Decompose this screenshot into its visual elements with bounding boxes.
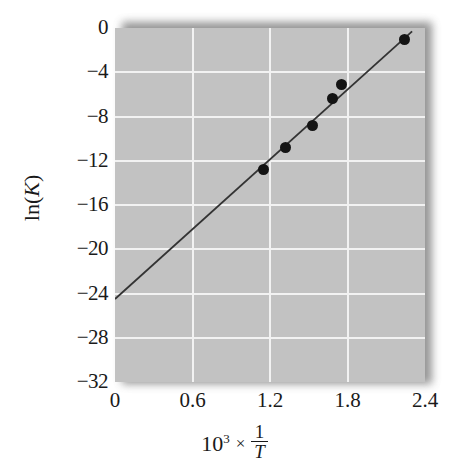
x-axis-tick-label: 0.6 (158, 390, 228, 411)
x-axis-tick-label: 2.4 (390, 390, 460, 411)
x-axis-tick-label: 1.8 (313, 390, 383, 411)
arrhenius-plot-figure: 0−4−8−12−16−20−24−28−32 00.61.21.82.4 ln… (0, 0, 469, 475)
data-point (327, 93, 338, 104)
data-point (399, 34, 410, 45)
fit-line (115, 28, 425, 382)
x-axis-tick-labels: 00.61.21.82.4 (0, 390, 469, 418)
y-axis-tick-label: −12 (50, 150, 108, 171)
data-point (336, 79, 347, 90)
x-axis-label: 103×1T (0, 424, 469, 464)
x-axis-tick-label: 1.2 (235, 390, 305, 411)
data-point (280, 142, 291, 153)
data-point (307, 120, 318, 131)
y-axis-tick-label: −8 (50, 106, 108, 127)
y-axis-tick-label: −24 (50, 283, 108, 304)
y-axis-tick-label: −28 (50, 327, 108, 348)
plot-area (115, 28, 425, 382)
x-axis-label-fraction: 1T (251, 422, 268, 462)
x-axis-tick-label: 0 (80, 390, 150, 411)
y-axis-label: ln(K) (19, 148, 45, 248)
y-axis-tick-label: −4 (50, 61, 108, 82)
x-axis-label-mantissa: 10 (201, 431, 223, 456)
x-axis-label-base: 103 (201, 431, 230, 457)
y-axis-label-suffix: ) (19, 175, 44, 182)
y-axis-tick-label: −32 (50, 371, 108, 392)
y-axis-tick-label: 0 (50, 17, 108, 38)
fraction-numerator: 1 (251, 422, 268, 441)
y-axis-tick-label: −20 (50, 238, 108, 259)
multiplication-icon: × (236, 434, 246, 454)
fraction-denominator: T (251, 441, 268, 461)
x-axis-label-exponent: 3 (223, 431, 230, 446)
y-axis-label-prefix: ln( (19, 197, 44, 221)
y-axis-tick-label: −16 (50, 194, 108, 215)
y-axis-label-variable: K (19, 182, 44, 197)
